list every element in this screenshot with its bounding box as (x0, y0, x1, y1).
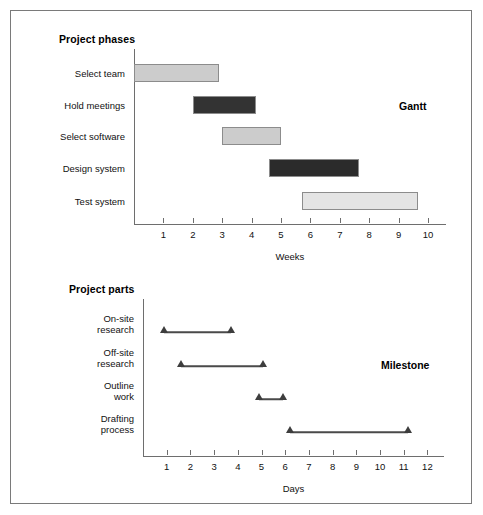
x-axis-tick (404, 450, 405, 455)
x-axis-tick (214, 450, 215, 455)
x-axis-tick (356, 450, 357, 455)
category-label: On-site research (44, 313, 134, 335)
milestone-start-marker (177, 360, 185, 367)
milestone-title: Project parts (69, 283, 135, 295)
x-axis-tick (262, 450, 263, 455)
milestone-connector (181, 365, 263, 367)
x-axis-tick (285, 450, 286, 455)
x-axis-tick-label: 11 (399, 461, 409, 472)
x-axis-tick-label: 12 (422, 461, 433, 472)
milestone-end-marker (227, 326, 235, 333)
milestone-start-marker (255, 393, 263, 400)
milestone-chart: Project parts Milestone 123456789101112D… (11, 11, 471, 503)
milestone-end-marker (279, 393, 287, 400)
milestone-start-marker (286, 426, 294, 433)
figure-frame: Project phases Gantt 12345678910WeeksSel… (10, 10, 472, 504)
x-axis-tick-label: 6 (283, 461, 288, 472)
milestone-start-marker (160, 326, 168, 333)
milestone-end-marker (404, 426, 412, 433)
x-axis-tick-label: 9 (354, 461, 359, 472)
x-axis-tick (190, 450, 191, 455)
x-axis-tick (309, 450, 310, 455)
x-axis-tick-label: 1 (164, 461, 169, 472)
y-axis-line (143, 299, 144, 456)
x-axis-tick (238, 450, 239, 455)
milestone-end-marker (259, 360, 267, 367)
x-axis-tick-label: 5 (259, 461, 264, 472)
x-axis-tick-label: 8 (330, 461, 335, 472)
x-axis-line (143, 456, 444, 457)
x-axis-tick-label: 2 (188, 461, 193, 472)
x-axis-title: Days (283, 483, 305, 494)
milestone-connector (290, 431, 409, 433)
x-axis-tick (167, 450, 168, 455)
x-axis-tick-label: 4 (235, 461, 240, 472)
x-axis-tick (427, 450, 428, 455)
milestone-connector (164, 331, 230, 333)
x-axis-tick (333, 450, 334, 455)
category-label: Off-site research (44, 347, 134, 369)
milestone-annotation: Milestone (381, 359, 429, 371)
x-axis-tick-label: 3 (211, 461, 216, 472)
x-axis-tick (380, 450, 381, 455)
category-label: Drafting process (44, 413, 134, 435)
x-axis-tick-label: 7 (306, 461, 311, 472)
category-label: Outline work (44, 380, 134, 402)
x-axis-tick-label: 10 (375, 461, 386, 472)
